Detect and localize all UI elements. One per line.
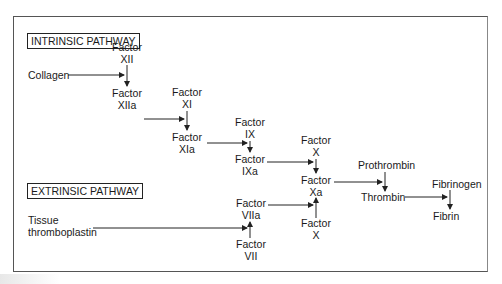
- page-shadow: [0, 274, 60, 284]
- arrows-layer: [0, 0, 502, 284]
